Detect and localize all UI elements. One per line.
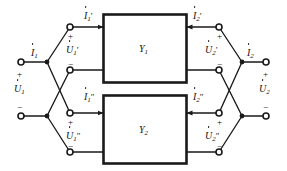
block-y2-label: Y2	[139, 124, 148, 137]
y2-left-minus-sign: −	[68, 142, 73, 151]
terminal-y2-right-plus	[216, 110, 222, 116]
junction-right-top	[240, 60, 245, 65]
wire-left-bottom-to-y1n	[47, 70, 70, 116]
y1-left-current-label: I1′	[84, 11, 93, 23]
junction-left-bottom	[45, 114, 50, 119]
terminal-y2-left-plus	[67, 110, 73, 116]
y1-right-voltage-label: U2′	[205, 45, 218, 57]
output-plus-sign: +	[263, 70, 268, 79]
input-voltage-label: U1	[14, 84, 25, 96]
y1-right-minus-sign: −	[217, 60, 222, 69]
junction-right-bottom	[240, 114, 245, 119]
terminal-input-plus	[18, 59, 24, 65]
y2-left-current-label: I1″	[84, 92, 95, 104]
input-plus-sign: +	[17, 70, 22, 79]
terminal-y1-left-plus	[67, 24, 73, 30]
wire-right-y1n-to-bottom	[219, 70, 242, 116]
circuit-diagram: Y1 Y2 I1 + U1 − I1′ + U1′ − I2′ + U2′ − …	[0, 0, 287, 171]
wire-right-y2n-to-bottom	[219, 116, 242, 152]
y2-right-current-label: I2″	[193, 92, 204, 104]
output-current-label: I2	[247, 48, 254, 60]
output-minus-sign: −	[263, 103, 268, 112]
input-minus-sign: −	[17, 103, 22, 112]
output-voltage-label: U2	[259, 84, 270, 96]
y1-left-minus-sign: −	[68, 60, 73, 69]
terminal-input-minus	[18, 113, 24, 119]
terminal-output-plus	[263, 59, 269, 65]
terminal-y1-right-plus	[216, 24, 222, 30]
y1-right-plus-sign: +	[217, 32, 222, 41]
y1-left-voltage-label: U1′	[66, 45, 79, 57]
y2-right-minus-sign: −	[217, 142, 222, 151]
input-current-label: I1	[31, 48, 38, 60]
wire-right-y1p-to-top	[219, 27, 242, 62]
y2-right-plus-sign: +	[217, 118, 222, 127]
terminal-output-minus	[263, 113, 269, 119]
y1-right-current-label: I2′	[193, 11, 202, 23]
block-y1-label: Y1	[139, 43, 148, 56]
junction-left-top	[45, 60, 50, 65]
diagram-canvas	[0, 0, 287, 171]
